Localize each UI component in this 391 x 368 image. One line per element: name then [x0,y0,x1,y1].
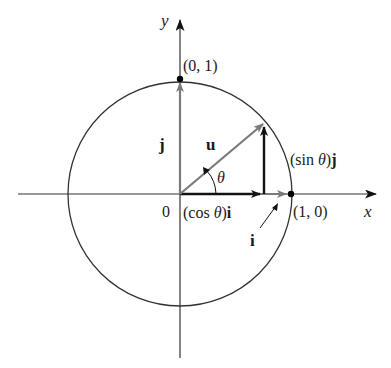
origin-label: 0 [162,203,170,220]
point-1-0-label: (1, 0) [293,203,328,221]
theta-label: θ [217,169,225,186]
theta-angle-arc [207,171,216,194]
cos-theta-i-label: (cos θ)i [183,204,232,222]
x-axis-label: x [363,202,372,221]
u-label: u [206,135,215,154]
unit-circle-diagram: y x 0 (0, 1) (1, 0) j u θ i (cos θ)i (si… [0,0,391,368]
i-label: i [250,231,255,250]
point-0-1-label: (0, 1) [183,57,218,75]
point-1-0 [288,191,294,197]
j-label: j [158,135,165,154]
point-0-1 [177,76,183,82]
sin-theta-j-label: (sin θ)j [290,151,337,169]
i-pointer-line [260,206,276,228]
y-axis-label: y [159,11,169,30]
